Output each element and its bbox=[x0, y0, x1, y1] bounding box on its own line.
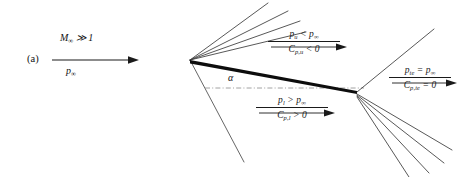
lower-surface-pressure: pl > p∞ bbox=[256, 95, 328, 107]
freestream-mach-label: M∞ ≫ 1 bbox=[60, 33, 93, 44]
angle-of-attack-label: α bbox=[228, 73, 233, 84]
upper-surface-coefficient: Cp,u < 0 bbox=[268, 42, 340, 54]
figure-container: (a) M∞ ≫ 1 p∞ α pu < p∞ Cp,u < 0 pl > p∞… bbox=[0, 0, 464, 177]
expansion-line-1 bbox=[190, 3, 268, 60]
te-expansion-line-2 bbox=[357, 95, 444, 163]
te-expansion-line-3 bbox=[357, 96, 429, 173]
lower-surface-pressure-group: pl > p∞ Cp,l > 0 bbox=[256, 95, 328, 121]
freestream-arrow bbox=[52, 56, 139, 64]
upper-surface-pressure-group: pu < p∞ Cp,u < 0 bbox=[268, 29, 340, 55]
trailing-edge-pressure-group: pte = p∞ Cp,te = 0 bbox=[389, 65, 451, 91]
panel-letter: (a) bbox=[27, 53, 39, 64]
lower-surface-coefficient: Cp,l > 0 bbox=[256, 108, 328, 120]
trailing-edge-expansion-fan bbox=[357, 94, 452, 177]
freestream-arrow-head bbox=[128, 56, 139, 64]
leading-edge-oblique-shock bbox=[190, 60, 244, 162]
upper-surface-pressure: pu < p∞ bbox=[268, 29, 340, 41]
freestream-pressure-label: p∞ bbox=[66, 66, 76, 77]
flat-plate-airfoil bbox=[190, 60, 357, 94]
te-expansion-line-1 bbox=[357, 94, 452, 150]
trailing-edge-coefficient: Cp,te = 0 bbox=[389, 78, 451, 90]
trailing-edge-pressure: pte = p∞ bbox=[389, 65, 451, 77]
